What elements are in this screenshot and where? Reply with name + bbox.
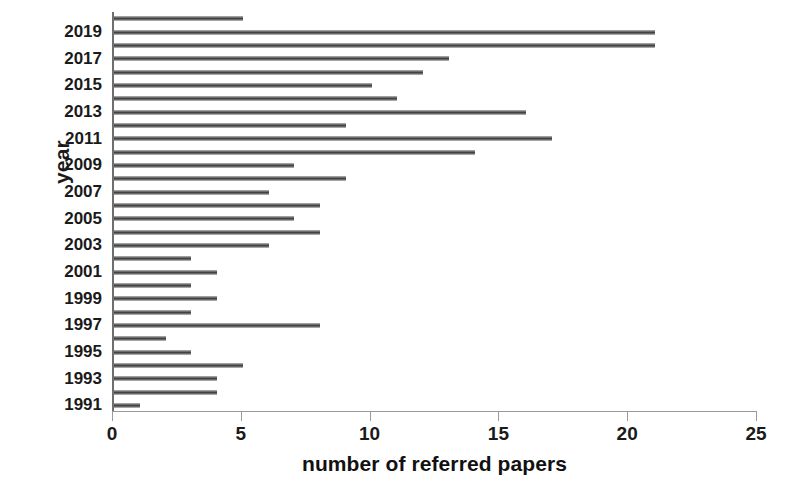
bar-2003 <box>114 243 269 248</box>
bar-2010 <box>114 150 475 155</box>
y-tick-label-1993: 1993 <box>34 372 102 386</box>
x-axis-title: number of referred papers <box>112 452 757 476</box>
bar-1991 <box>114 403 140 408</box>
bar-1999 <box>114 296 217 301</box>
x-tick-mark-10 <box>370 412 371 421</box>
y-tick-label-2017: 2017 <box>34 52 102 66</box>
y-tick-label-2005: 2005 <box>34 212 102 226</box>
y-tick-label-2013: 2013 <box>34 105 102 119</box>
bar-1998 <box>114 310 191 315</box>
x-tick-label-0: 0 <box>62 423 162 445</box>
y-tick-label-2007: 2007 <box>34 185 102 199</box>
x-tick-mark-15 <box>498 412 499 421</box>
x-tick-mark-5 <box>241 412 242 421</box>
bar-2005 <box>114 216 294 221</box>
bar-2015 <box>114 83 372 88</box>
bar-2013 <box>114 110 526 115</box>
x-tick-mark-0 <box>112 412 113 421</box>
bar-2009 <box>114 163 294 168</box>
bar-2007 <box>114 190 269 195</box>
bar-2006 <box>114 203 320 208</box>
x-tick-mark-25 <box>756 412 757 421</box>
bar-1994 <box>114 363 243 368</box>
bar-1992 <box>114 390 217 395</box>
bar-2008 <box>114 176 346 181</box>
y-tick-label-2003: 2003 <box>34 238 102 252</box>
bar-1997 <box>114 323 320 328</box>
y-tick-label-1999: 1999 <box>34 292 102 306</box>
bar-2014 <box>114 96 397 101</box>
y-tick-label-1997: 1997 <box>34 318 102 332</box>
bar-1993 <box>114 376 217 381</box>
x-tick-label-5: 5 <box>191 423 291 445</box>
y-tick-label-2009: 2009 <box>34 158 102 172</box>
y-tick-label-1995: 1995 <box>34 345 102 359</box>
x-axis-tick-marks <box>112 412 762 422</box>
y-axis-tick-labels: 1991199319951997199920012003200520072009… <box>34 12 106 412</box>
y-tick-label-1991: 1991 <box>34 398 102 412</box>
bar-2011 <box>114 136 552 141</box>
bar-2002 <box>114 256 191 261</box>
bar-1995 <box>114 350 191 355</box>
y-tick-label-2019: 2019 <box>34 25 102 39</box>
bar-2018 <box>114 43 655 48</box>
bar-1996 <box>114 336 166 341</box>
y-tick-label-2015: 2015 <box>34 78 102 92</box>
x-tick-label-20: 20 <box>577 423 677 445</box>
x-tick-label-10: 10 <box>320 423 420 445</box>
plot-area <box>112 12 757 412</box>
bar-2000 <box>114 283 191 288</box>
bar-2001 <box>114 270 217 275</box>
bar-2012 <box>114 123 346 128</box>
bar-2019 <box>114 30 655 35</box>
x-tick-label-25: 25 <box>706 423 797 445</box>
y-tick-label-2011: 2011 <box>34 132 102 146</box>
bar-2004 <box>114 230 320 235</box>
y-tick-label-2001: 2001 <box>34 265 102 279</box>
bar-2020 <box>114 16 243 21</box>
bar-2017 <box>114 56 449 61</box>
bar-chart: year 19911993199519971999200120032005200… <box>0 0 797 498</box>
bar-2016 <box>114 70 423 75</box>
x-tick-label-15: 15 <box>448 423 548 445</box>
x-tick-mark-20 <box>627 412 628 421</box>
x-axis-tick-labels: 0510152025 <box>62 423 797 449</box>
